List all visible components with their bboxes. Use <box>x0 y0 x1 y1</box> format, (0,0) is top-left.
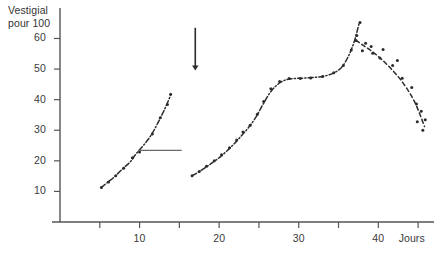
data-point <box>122 167 125 170</box>
data-point <box>114 174 117 177</box>
data-point <box>421 129 424 132</box>
data-point <box>299 77 302 80</box>
data-point <box>382 48 385 51</box>
data-point <box>159 116 162 119</box>
data-point <box>359 21 362 24</box>
y-axis-tick-label: 60 <box>20 31 46 43</box>
x-axis-title: Jours <box>390 232 434 244</box>
data-point <box>391 64 394 67</box>
data-point <box>169 93 172 96</box>
data-point <box>131 156 134 159</box>
data-point <box>107 180 110 183</box>
data-point <box>269 87 272 90</box>
data-point <box>361 49 364 52</box>
chart-container: Vestigial pour 100 10203040506010203040J… <box>0 0 440 260</box>
data-point <box>166 103 169 106</box>
data-point <box>415 102 418 105</box>
data-point <box>416 120 419 123</box>
data-point <box>355 34 358 37</box>
data-point <box>396 59 399 62</box>
data-point <box>401 77 404 80</box>
data-point <box>371 52 374 55</box>
y-axis-tick-label: 50 <box>20 62 46 74</box>
data-point <box>242 131 245 134</box>
data-point <box>213 159 216 162</box>
data-point <box>355 39 358 42</box>
data-point <box>288 77 291 80</box>
data-point <box>332 71 335 74</box>
data-series-line <box>101 95 170 187</box>
x-axis-tick-label: 30 <box>284 232 314 244</box>
data-point <box>151 132 154 135</box>
data-point <box>350 49 353 52</box>
data-point <box>378 57 381 60</box>
data-point <box>249 124 252 127</box>
data-point <box>235 139 238 142</box>
y-axis-tick-label: 30 <box>20 123 46 135</box>
x-axis-tick-label: 20 <box>204 232 234 244</box>
data-point <box>191 174 194 177</box>
data-point <box>364 42 367 45</box>
treatment-arrow-annotation <box>192 28 198 71</box>
x-axis-tick-label: 10 <box>125 232 155 244</box>
data-point <box>370 45 373 48</box>
data-series-line <box>192 23 359 176</box>
data-point <box>100 186 103 189</box>
data-point <box>420 110 423 113</box>
data-point <box>321 75 324 78</box>
data-point <box>256 113 259 116</box>
arrow-head-icon <box>192 66 198 71</box>
data-point <box>228 146 231 149</box>
data-series-line <box>356 40 424 126</box>
data-point <box>410 86 413 89</box>
y-axis-tick-label: 40 <box>20 93 46 105</box>
y-axis-tick-label: 10 <box>20 184 46 196</box>
data-point <box>198 170 201 173</box>
data-point <box>220 153 223 156</box>
data-point <box>309 76 312 79</box>
data-point <box>424 118 427 121</box>
chart-plot-area <box>0 0 440 260</box>
y-axis-tick-label: 20 <box>20 154 46 166</box>
data-point <box>278 80 281 83</box>
data-point <box>205 165 208 168</box>
data-point <box>342 64 345 67</box>
data-point <box>262 100 265 103</box>
